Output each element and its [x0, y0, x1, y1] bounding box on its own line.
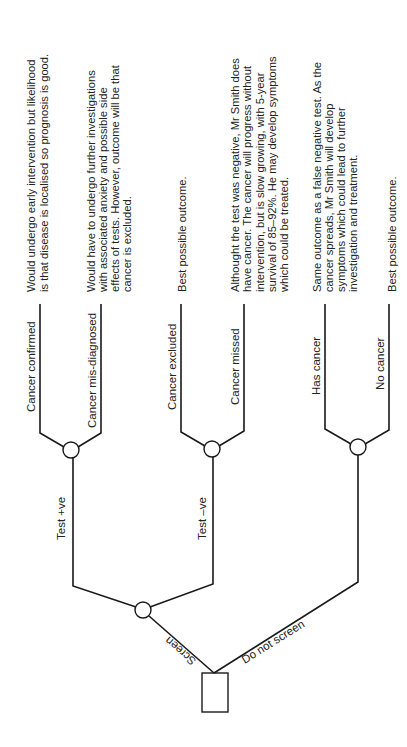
svg-text:Same outcome as a false negati: Same outcome as a false negative test. A… — [311, 62, 323, 292]
svg-text:Best possible outcome.: Best possible outcome. — [386, 176, 398, 292]
do-not-screen-branch-label: Do not screen — [239, 618, 306, 666]
terminal-label-cancer-missed: Cancer missed — [229, 328, 241, 405]
svg-text:have cancer. The cancer will p: have cancer. The cancer will progress wi… — [241, 65, 253, 292]
svg-text:with associated anxiety and po: with associated anxiety and possible sid… — [97, 87, 109, 293]
terminal-label-cancer-excluded: Cancer excluded — [166, 324, 178, 410]
test-pos-chance-node — [63, 442, 79, 458]
test-neg-branch-label: Test –ve — [196, 497, 208, 540]
outcome-cancer-misdiagnosed: Would have to undergo further investigat… — [85, 64, 133, 293]
svg-text:survival of 85–92%. He may dev: survival of 85–92%. He may develop sympt… — [266, 56, 278, 292]
terminal-label-cancer-confirmed: Cancer confirmed — [25, 321, 37, 412]
cancer-excluded-line — [181, 304, 205, 446]
has-cancer-line — [325, 304, 351, 444]
screen-chance-node — [135, 602, 151, 618]
screen-branch-label: Screen — [163, 635, 198, 668]
svg-text:effects of tests. However, out: effects of tests. However, outcome will … — [109, 64, 121, 292]
outcome-cancer-confirmed: Would undergo early intervention but lik… — [25, 54, 50, 292]
svg-text:cancer is excluded.: cancer is excluded. — [121, 196, 133, 292]
svg-text:intervention, but is slow grow: intervention, but is slow growing, with … — [254, 72, 266, 292]
test-neg-chance-node — [204, 441, 220, 457]
svg-text:is that disease is localised s: is that disease is localised so prognosi… — [38, 54, 50, 292]
no-screen-chance-node — [350, 439, 366, 455]
outcome-no-cancer: Best possible outcome. — [386, 176, 398, 292]
svg-text:cancer spreads, Mr Smith will: cancer spreads, Mr Smith will develop — [323, 104, 335, 292]
terminal-label-cancer-misdiagnosed: Cancer mis-diagnosed — [86, 313, 98, 428]
outcome-cancer-excluded: Best possible outcome. — [176, 176, 188, 292]
root-decision-box — [202, 673, 228, 712]
decision-tree-diagram: Screen Do not screen Test +ve Test –ve C… — [0, 0, 407, 747]
svg-text:which could be treated.: which could be treated. — [278, 177, 290, 293]
svg-text:Althought the test was negativ: Althought the test was negative, Mr Smit… — [229, 58, 241, 292]
test-pos-branch-line — [73, 458, 136, 607]
terminal-label-has-cancer: Has cancer — [310, 337, 322, 395]
svg-text:Would undergo early interventi: Would undergo early intervention but lik… — [25, 60, 37, 292]
outcome-cancer-missed: Althought the test was negative, Mr Smit… — [229, 56, 290, 293]
svg-text:Would have to undergo further: Would have to undergo further investigat… — [85, 70, 97, 292]
cancer-confirmed-line — [40, 304, 64, 447]
svg-text:investigation and treatment.: investigation and treatment. — [347, 155, 359, 292]
svg-text:symptoms which could lead to f: symptoms which could lead to further — [335, 107, 347, 292]
terminal-label-no-cancer: No cancer — [374, 337, 386, 390]
outcome-has-cancer: Same outcome as a false negative test. A… — [311, 62, 359, 292]
svg-text:Best possible outcome.: Best possible outcome. — [176, 176, 188, 292]
test-pos-branch-label: Test +ve — [55, 497, 67, 540]
